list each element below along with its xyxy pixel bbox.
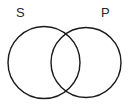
set-label-p: P	[101, 6, 110, 20]
set-circle-p	[51, 28, 121, 98]
set-circle-s	[8, 27, 80, 99]
set-label-s: S	[16, 6, 25, 20]
venn-diagram-canvas: S P	[0, 0, 130, 105]
